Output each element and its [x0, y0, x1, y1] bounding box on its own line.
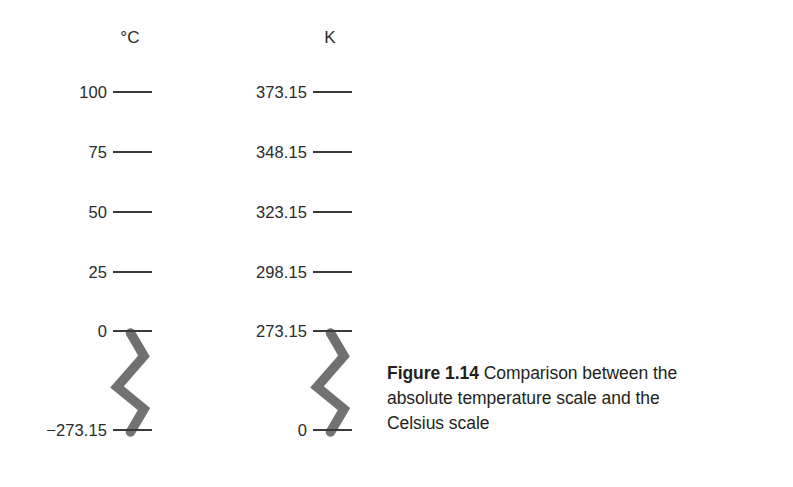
figure-thermometer-comparison: °C K 100 75 50 25 0 −273.15 373.15 348.1… — [0, 0, 793, 487]
celsius-label-100: 100 — [79, 83, 107, 102]
kelvin-label-348: 348.15 — [256, 143, 307, 162]
figure-caption: Figure 1.14 Comparison between the absol… — [387, 361, 717, 436]
kelvin-label-323: 323.15 — [256, 203, 307, 222]
celsius-label-absolute-zero: −273.15 — [46, 421, 107, 440]
kelvin-label-273: 273.15 — [256, 322, 307, 341]
kelvin-label-298: 298.15 — [256, 263, 307, 282]
celsius-axis-break-zigzag — [117, 333, 144, 432]
celsius-unit-header: °C — [120, 28, 139, 48]
kelvin-label-373: 373.15 — [256, 83, 307, 102]
kelvin-axis-break-zigzag — [317, 333, 344, 432]
kelvin-scale-group — [313, 70, 352, 432]
celsius-label-0: 0 — [98, 322, 107, 341]
celsius-scale-group — [113, 70, 152, 432]
celsius-label-25: 25 — [88, 263, 107, 282]
kelvin-unit-header: K — [324, 28, 336, 48]
figure-number: Figure 1.14 — [387, 363, 479, 383]
kelvin-label-0: 0 — [298, 421, 307, 440]
celsius-label-50: 50 — [88, 203, 107, 222]
celsius-label-75: 75 — [88, 143, 107, 162]
